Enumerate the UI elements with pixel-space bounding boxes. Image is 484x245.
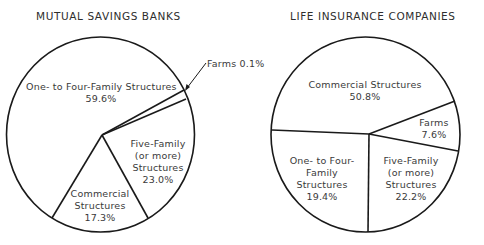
slice-label-text: Structures bbox=[284, 179, 360, 191]
slice-label-one-four-family: One- to Four-Family Structures 59.6% bbox=[26, 81, 176, 105]
slice-divider-five-one-four bbox=[368, 134, 369, 232]
slice-label-text: (or more) bbox=[118, 150, 198, 162]
slice-label-text: Structures bbox=[370, 179, 452, 191]
slice-label-text: Farms bbox=[414, 117, 454, 129]
slice-label-commercial: Commercial Structures 50.8% bbox=[300, 79, 430, 103]
slice-label-value: 7.6% bbox=[414, 129, 454, 141]
slice-label-text: One- to Four- bbox=[284, 155, 360, 167]
slice-label-one-four-family: One- to Four- Family Structures 19.4% bbox=[284, 155, 360, 203]
slice-label-text: Commercial bbox=[64, 188, 136, 200]
slice-label-text: One- to Four-Family Structures bbox=[26, 81, 176, 93]
slice-label-text: Five-Family bbox=[118, 138, 198, 150]
slice-label-farms: Farms 0.1% bbox=[207, 58, 265, 70]
slice-label-text: Five-Family bbox=[370, 155, 452, 167]
slice-label-value: 22.2% bbox=[370, 191, 452, 203]
slice-label-five-family: Five-Family (or more) Structures 23.0% bbox=[118, 138, 198, 186]
farms-callout-line bbox=[187, 63, 206, 88]
slice-divider-one-four-commercial bbox=[272, 130, 369, 134]
slice-label-value: 23.0% bbox=[118, 174, 198, 186]
slice-label-commercial: Commercial Structures 17.3% bbox=[64, 188, 136, 224]
slice-label-value: 17.3% bbox=[64, 212, 136, 224]
slice-label-text: Commercial Structures bbox=[300, 79, 430, 91]
slice-label-five-family: Five-Family (or more) Structures 22.2% bbox=[370, 155, 452, 203]
slice-label-farms: Farms 7.6% bbox=[414, 117, 454, 141]
slice-label-value: 19.4% bbox=[284, 191, 360, 203]
slice-label-text: Structures bbox=[64, 200, 136, 212]
slice-label-value: 59.6% bbox=[26, 93, 176, 105]
slice-label-value: 50.8% bbox=[300, 91, 430, 103]
slice-label-text: (or more) bbox=[370, 167, 452, 179]
slice-label-text: Family bbox=[284, 167, 360, 179]
slice-label-text: Structures bbox=[118, 162, 198, 174]
